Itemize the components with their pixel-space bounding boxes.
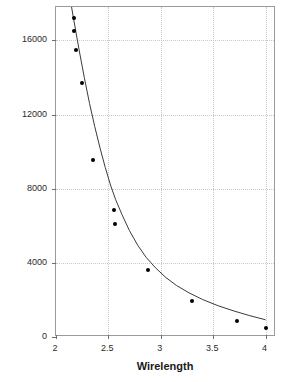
y-axis-tick	[52, 189, 56, 190]
data-point	[91, 158, 95, 162]
y-axis-tick-label: 0	[3, 331, 47, 341]
y-axis-tick	[52, 115, 56, 116]
data-point	[74, 48, 78, 52]
data-point	[113, 222, 117, 226]
data-point	[112, 208, 116, 212]
plot-inner	[56, 7, 274, 335]
y-axis-tick-label: 4000	[3, 257, 47, 267]
x-axis-tick-label: 3.5	[192, 343, 232, 353]
y-axis-tick-label: 8000	[3, 183, 47, 193]
x-axis-tick-label: 4	[245, 343, 285, 353]
x-axis-tick-label: 2	[35, 343, 75, 353]
x-axis-tick-label: 3	[140, 343, 180, 353]
data-point	[190, 299, 194, 303]
chart-container: Inter-Tier Vias 0400080001200016000 22.5…	[0, 0, 286, 382]
data-point	[72, 29, 76, 33]
y-axis-tick	[52, 263, 56, 264]
y-axis-tick-label: 16000	[3, 34, 47, 44]
y-axis-tick	[52, 40, 56, 41]
x-axis-tick-label: 2.5	[87, 343, 127, 353]
data-point	[72, 16, 76, 20]
y-axis-tick-label: 12000	[3, 109, 47, 119]
fit-curve	[56, 7, 276, 337]
plot-area	[55, 6, 275, 336]
x-axis-title: Wirelength	[55, 360, 275, 372]
